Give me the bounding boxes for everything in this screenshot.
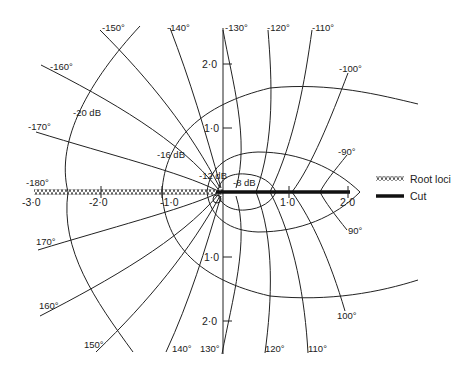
tick-label-x-neg1: -1·0: [160, 196, 179, 208]
phase-label-neg100: -100°: [339, 63, 362, 74]
phase-130: [223, 30, 241, 188]
phase-n130: [222, 196, 241, 354]
phase-label-120: 120°: [265, 343, 285, 354]
gain-label-16db: -16 dB: [157, 149, 185, 160]
phase-label-neg110: -110°: [312, 22, 334, 33]
phase-label-neg120: -120°: [267, 22, 290, 33]
phase-label-neg130: -130°: [225, 22, 248, 33]
phase-110: [270, 30, 312, 192]
root-loci-line: [34, 189, 223, 195]
phase-label-100: 100°: [337, 310, 357, 321]
phase-150: [100, 30, 220, 188]
phase-label-neg160: -160°: [50, 61, 73, 72]
phase-label-90: 90°: [348, 225, 363, 236]
phase-label-140: 140°: [172, 343, 192, 354]
tick-label-y-down1: 1·0: [204, 251, 219, 263]
tick-label-x-neg3: -3·0: [22, 196, 41, 208]
gain-label-20db: -20 dB: [73, 107, 101, 118]
phase-label-170: 170°: [36, 236, 56, 247]
phase-label-neg140: -140°: [167, 22, 190, 33]
phase-contours-lower: [38, 192, 347, 354]
tick-label-y-up2: 2·0: [202, 58, 217, 70]
gain-label-12db: -12 dB: [199, 170, 227, 181]
tick-label-y-down2: 2·0: [202, 315, 217, 327]
phase-label-neg150: -150°: [102, 22, 125, 33]
phase-label-110: 110°: [308, 343, 327, 354]
phase-n120: [256, 192, 270, 353]
phase-n170: [38, 194, 216, 250]
tick-label-x-1: 1·0: [280, 196, 295, 208]
contour-8db-lower: [218, 192, 276, 210]
phase-n150: [96, 196, 220, 352]
legend-root-loci-label: Root loci: [410, 173, 451, 185]
phase-120: [256, 30, 271, 192]
gain-label-8db: -8 dB: [233, 177, 256, 188]
phase-label-150: 150°: [84, 339, 104, 350]
tick-label-x-2: 2·0: [340, 196, 355, 208]
phase-170: [36, 132, 216, 190]
phase-label-160: 160°: [39, 300, 59, 311]
phase-label-neg90: -90°: [338, 146, 356, 157]
phase-label-130: 130°: [200, 343, 220, 354]
phase-label-neg170: -170°: [28, 121, 51, 132]
legend: Root loci Cut: [376, 173, 451, 202]
phase-n110: [270, 192, 308, 353]
phase-label-neg180: -180°: [26, 177, 49, 188]
tick-label-y-up1: 1·0: [204, 122, 219, 134]
root-locus-diagram: -3·0 -2·0 -1·0 1·0 2·0 2·0 1·0 1·0 2·0 -…: [0, 0, 476, 376]
legend-cut-label: Cut: [410, 190, 426, 202]
phase-90: [320, 155, 347, 192]
legend-root-loci-swatch: [376, 176, 404, 181]
tick-label-x-neg2: -2·0: [89, 196, 108, 208]
phase-100: [292, 73, 348, 192]
